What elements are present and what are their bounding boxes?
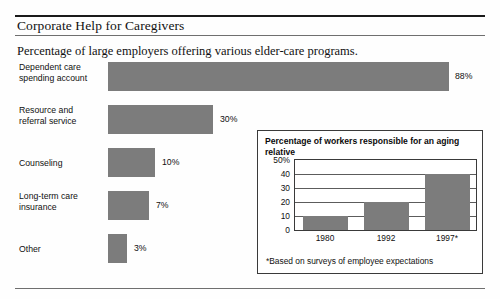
bar-row: Dependent care spending account 88% (0, 62, 500, 105)
y-axis-tick: 50% (273, 155, 290, 165)
bar-value-label: 88% (455, 71, 472, 81)
bar-fill (108, 234, 127, 263)
y-axis-tick: 20 (281, 197, 290, 207)
inset-footnote: *Based on surveys of employee expectatio… (266, 256, 433, 266)
inset-panel: Percentage of workers responsible for an… (257, 130, 483, 274)
bar-category-label-line1: Counseling (19, 158, 107, 169)
bar-value-label: 10% (162, 157, 179, 167)
y-axis-tick: 0 (285, 225, 290, 235)
y-axis-tick: 40 (281, 169, 290, 179)
column-bar (364, 202, 409, 230)
bar-fill (108, 191, 149, 220)
bar-category-label-line1: Long-term care (19, 191, 107, 202)
bar-category-label: Other (19, 244, 107, 255)
bottom-divider (15, 288, 485, 289)
bar-track (108, 62, 449, 91)
bar-category-label-line1: Resource and (19, 105, 107, 116)
bar-category-label-line2: referral service (19, 116, 107, 127)
subtitle: Percentage of large employers offering v… (17, 44, 358, 59)
bar-category-label-line2: insurance (19, 202, 107, 213)
plot-area (294, 159, 477, 231)
x-axis-tick: 1992 (377, 233, 396, 243)
column-bar (425, 174, 470, 230)
bar-track (108, 148, 155, 177)
inset-title: Percentage of workers responsible for an… (265, 136, 479, 157)
title-divider (15, 35, 485, 36)
column-bar (303, 216, 348, 230)
x-axis-tick: 1997* (436, 233, 458, 243)
bar-category-label-line1: Dependent care (19, 62, 107, 73)
bar-value-label: 3% (134, 243, 147, 253)
bar-track (108, 191, 149, 220)
bar-fill (108, 62, 449, 91)
bar-track (108, 234, 127, 263)
inset-column-chart: 50% 40 30 20 10 0 1980 1992 1997* (265, 159, 477, 245)
y-axis-tick: 30 (281, 183, 290, 193)
bar-category-label: Dependent care spending account (19, 62, 107, 83)
bar-value-label: 7% (156, 200, 169, 210)
top-divider (15, 15, 485, 17)
page-title: Corporate Help for Caregivers (17, 18, 184, 34)
bar-category-label: Counseling (19, 158, 107, 169)
x-axis-tick: 1980 (316, 233, 335, 243)
bar-category-label: Resource and referral service (19, 105, 107, 126)
bar-category-label-line1: Other (19, 244, 107, 255)
bar-category-label-line2: spending account (19, 73, 107, 84)
bar-value-label: 30% (220, 114, 237, 124)
bar-track (108, 105, 213, 134)
bar-category-label: Long-term care insurance (19, 191, 107, 212)
infographic-figure: Corporate Help for Caregivers Percentage… (0, 0, 500, 299)
y-axis-tick: 10 (281, 211, 290, 221)
bar-fill (108, 148, 155, 177)
y-axis: 50% 40 30 20 10 0 (265, 159, 290, 231)
bar-fill (108, 105, 213, 134)
